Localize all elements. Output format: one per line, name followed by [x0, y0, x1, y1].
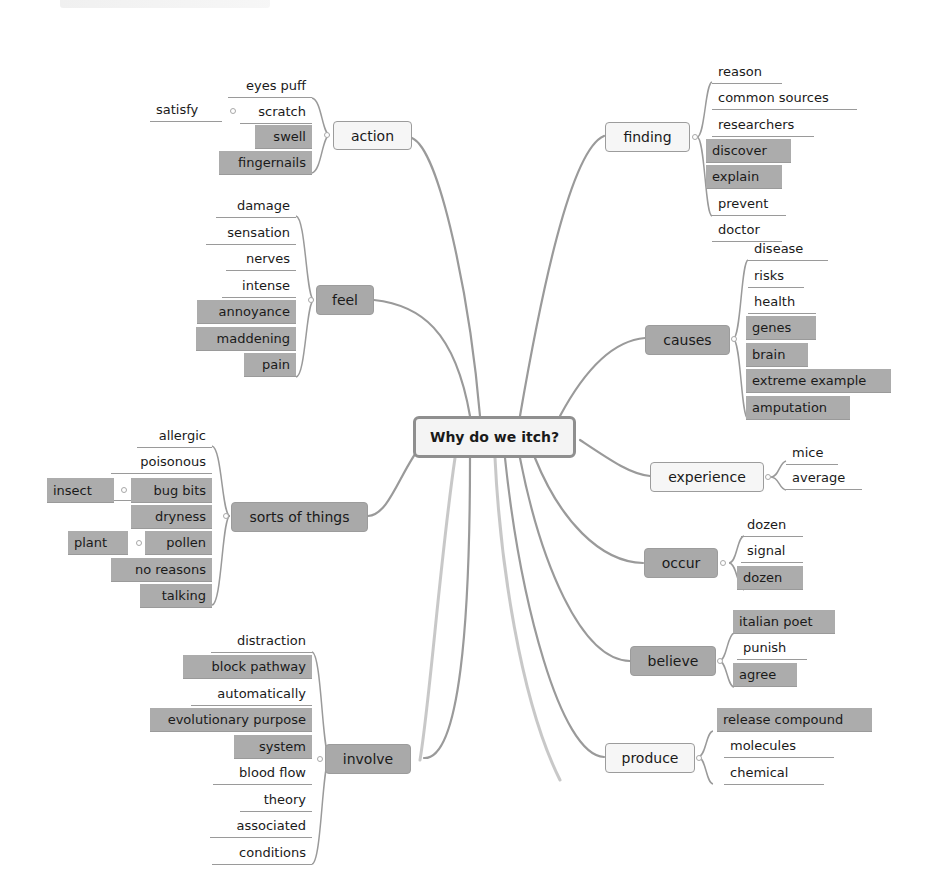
- leaf-fingernails[interactable]: fingernails: [219, 151, 312, 175]
- leaf-intense[interactable]: intense: [222, 274, 296, 298]
- leaf-chemical[interactable]: chemical: [724, 761, 824, 785]
- mind-map-canvas: Why do we itch? action eyes puff scratch…: [0, 0, 925, 896]
- collapse-toggle-icon[interactable]: [121, 487, 127, 493]
- collapse-toggle-icon[interactable]: [731, 336, 737, 342]
- leaf-block-pathway[interactable]: block pathway: [183, 655, 312, 679]
- leaf-allergic[interactable]: allergic: [137, 424, 212, 448]
- leaf-damage[interactable]: damage: [216, 194, 296, 218]
- branch-label: action: [351, 128, 394, 144]
- branch-feel[interactable]: feel: [316, 285, 374, 315]
- leaf-explain[interactable]: explain: [706, 165, 782, 189]
- collapse-toggle-icon[interactable]: [136, 540, 142, 546]
- leaf-italian-poet[interactable]: italian poet: [733, 610, 835, 634]
- leaf-annoyance[interactable]: annoyance: [197, 300, 296, 324]
- branch-label: believe: [648, 653, 699, 669]
- branch-produce[interactable]: produce: [605, 743, 695, 773]
- collapse-toggle-icon[interactable]: [720, 560, 726, 566]
- leaf-disease[interactable]: disease: [748, 237, 828, 261]
- leaf-conditions[interactable]: conditions: [212, 841, 312, 865]
- leaf-evolutionary-purpose[interactable]: evolutionary purpose: [150, 708, 312, 732]
- collapse-toggle-icon[interactable]: [765, 474, 771, 480]
- central-topic-label: Why do we itch?: [430, 429, 559, 445]
- collapse-toggle-icon[interactable]: [717, 658, 723, 664]
- leaf-risks[interactable]: risks: [748, 264, 804, 288]
- leaf-automatically[interactable]: automatically: [191, 682, 312, 706]
- branch-label: causes: [663, 332, 711, 348]
- leaf-satisfy[interactable]: satisfy: [150, 98, 222, 122]
- leaf-genes[interactable]: genes: [746, 316, 816, 340]
- leaf-researchers[interactable]: researchers: [712, 113, 814, 137]
- leaf-no-reasons[interactable]: no reasons: [111, 558, 212, 582]
- branch-sorts-of-things[interactable]: sorts of things: [231, 502, 368, 532]
- leaf-mice[interactable]: mice: [786, 441, 838, 465]
- branch-action[interactable]: action: [333, 121, 412, 150]
- leaf-amputation[interactable]: amputation: [746, 396, 850, 420]
- branch-label: experience: [668, 469, 746, 485]
- leaf-swell[interactable]: swell: [255, 125, 312, 149]
- leaf-release-compound[interactable]: release compound: [717, 708, 872, 732]
- leaf-scratch[interactable]: scratch: [240, 100, 312, 124]
- collapse-toggle-icon[interactable]: [230, 108, 236, 114]
- leaf-signal[interactable]: signal: [741, 539, 803, 563]
- branch-label: feel: [332, 292, 358, 308]
- leaf-dozen-highlighted[interactable]: dozen: [737, 566, 803, 590]
- leaf-nerves[interactable]: nerves: [226, 247, 296, 271]
- leaf-bug-bits[interactable]: bug bits: [131, 478, 212, 503]
- branch-label: involve: [343, 751, 393, 767]
- leaf-pain[interactable]: pain: [244, 353, 296, 377]
- leaf-insect[interactable]: insect: [47, 478, 114, 503]
- branch-label: produce: [622, 750, 679, 766]
- collapse-toggle-icon[interactable]: [317, 756, 323, 762]
- leaf-reason[interactable]: reason: [712, 60, 782, 84]
- leaf-distraction[interactable]: distraction: [211, 629, 312, 653]
- collapse-toggle-icon[interactable]: [692, 134, 698, 140]
- leaf-dryness[interactable]: dryness: [131, 505, 212, 529]
- central-topic[interactable]: Why do we itch?: [413, 416, 576, 458]
- branch-label: sorts of things: [249, 509, 349, 525]
- leaf-system[interactable]: system: [234, 735, 312, 759]
- leaf-brain[interactable]: brain: [746, 343, 808, 367]
- collapse-toggle-icon[interactable]: [223, 513, 229, 519]
- branch-label: occur: [662, 555, 701, 571]
- collapse-toggle-icon[interactable]: [696, 755, 702, 761]
- collapse-toggle-icon[interactable]: [308, 297, 314, 303]
- leaf-associated[interactable]: associated: [210, 814, 312, 838]
- leaf-health[interactable]: health: [748, 290, 816, 314]
- leaf-punish[interactable]: punish: [737, 636, 807, 660]
- leaf-discover[interactable]: discover: [706, 139, 791, 163]
- leaf-dozen[interactable]: dozen: [741, 513, 803, 537]
- collapse-toggle-icon[interactable]: [324, 132, 330, 138]
- leaf-molecules[interactable]: molecules: [724, 734, 834, 758]
- leaf-common-sources[interactable]: common sources: [712, 86, 857, 110]
- leaf-plant[interactable]: plant: [68, 531, 128, 555]
- leaf-prevent[interactable]: prevent: [712, 192, 786, 216]
- leaf-maddening[interactable]: maddening: [196, 327, 296, 351]
- leaf-theory[interactable]: theory: [240, 788, 312, 812]
- leaf-blood-flow[interactable]: blood flow: [213, 761, 312, 785]
- branch-believe[interactable]: believe: [630, 646, 716, 676]
- leaf-sensation[interactable]: sensation: [206, 221, 296, 245]
- leaf-poisonous[interactable]: poisonous: [111, 450, 212, 474]
- branch-involve[interactable]: involve: [325, 744, 411, 774]
- branch-occur[interactable]: occur: [644, 548, 718, 578]
- leaf-eyes-puff[interactable]: eyes puff: [228, 74, 312, 98]
- leaf-pollen[interactable]: pollen: [145, 531, 212, 555]
- leaf-extreme-example[interactable]: extreme example: [746, 369, 891, 393]
- branch-finding[interactable]: finding: [605, 122, 690, 152]
- leaf-average[interactable]: average: [786, 466, 862, 490]
- leaf-talking[interactable]: talking: [140, 584, 212, 608]
- branch-experience[interactable]: experience: [650, 462, 764, 492]
- branch-label: finding: [623, 129, 671, 145]
- branch-causes[interactable]: causes: [645, 325, 730, 355]
- leaf-agree[interactable]: agree: [733, 663, 797, 687]
